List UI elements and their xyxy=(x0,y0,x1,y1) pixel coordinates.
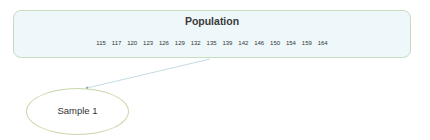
population-value: 117 xyxy=(112,40,122,46)
population-value: 159 xyxy=(302,40,312,46)
population-value: 115 xyxy=(96,40,106,46)
population-value: 142 xyxy=(238,40,248,46)
population-value: 139 xyxy=(222,40,232,46)
population-value: 150 xyxy=(270,40,280,46)
population-value: 126 xyxy=(159,40,169,46)
sample-label: Sample 1 xyxy=(27,105,128,116)
population-values: 115 117 120 123 126 129 132 135 139 142 … xyxy=(14,40,410,46)
population-value: 164 xyxy=(318,40,328,46)
population-title: Population xyxy=(14,15,410,27)
population-value: 123 xyxy=(143,40,153,46)
population-value: 135 xyxy=(207,40,217,46)
population-value: 132 xyxy=(191,40,201,46)
population-box: Population 115 117 120 123 126 129 132 1… xyxy=(13,10,411,58)
population-value: 154 xyxy=(286,40,296,46)
population-value: 129 xyxy=(175,40,185,46)
population-value: 120 xyxy=(127,40,137,46)
sample-ellipse: Sample 1 xyxy=(26,88,129,135)
population-value: 146 xyxy=(254,40,264,46)
